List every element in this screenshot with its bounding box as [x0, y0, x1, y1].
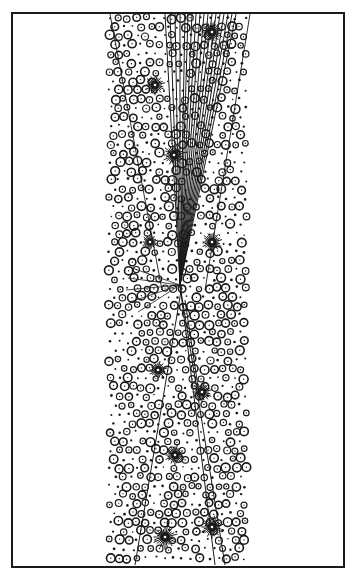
- star-burst: [150, 361, 167, 379]
- bubble-chamber-illustration: [0, 0, 355, 577]
- bubble-field: [105, 13, 251, 563]
